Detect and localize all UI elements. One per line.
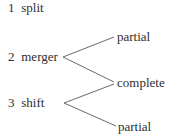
item-merger: 2 merger: [8, 50, 58, 64]
outcome-partial-bottom: partial: [118, 120, 151, 134]
outcome-complete: complete: [117, 76, 165, 90]
edge-merger-partial: [63, 37, 114, 57]
item-shift: 3 shift: [8, 96, 44, 110]
edge-shift-complete: [64, 84, 114, 103]
edge-merger-complete: [63, 57, 114, 82]
diagram-canvas: 1 split 2 merger 3 shift partial complet…: [0, 0, 177, 139]
item-number: 1: [8, 1, 18, 15]
item-number: 2: [8, 50, 18, 64]
item-label: split: [21, 0, 43, 15]
item-label: merger: [21, 49, 58, 64]
item-split: 1 split: [8, 1, 44, 15]
item-label: shift: [21, 95, 44, 110]
edge-shift-partial: [64, 103, 116, 126]
outcome-partial-top: partial: [117, 30, 150, 44]
item-number: 3: [8, 96, 18, 110]
